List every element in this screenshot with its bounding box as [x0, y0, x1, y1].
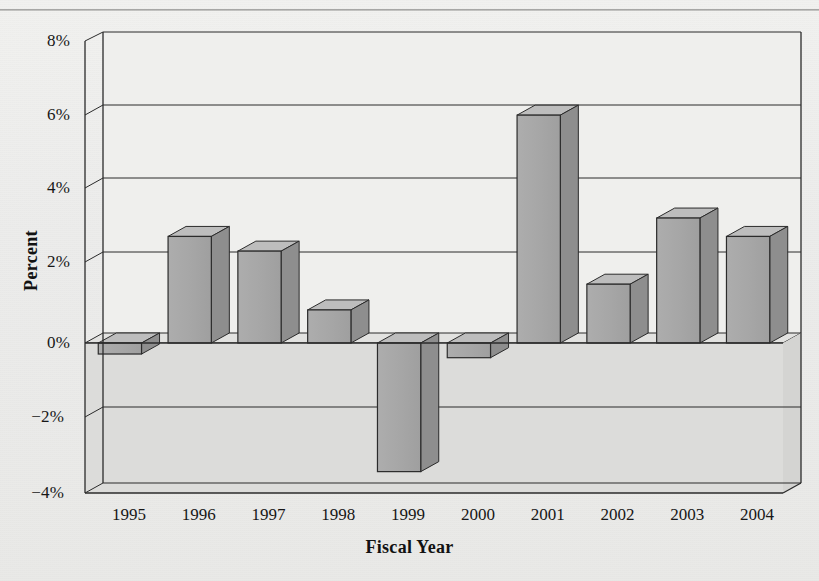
x-tick-label: 1997 — [234, 505, 304, 525]
bar-1996 — [168, 226, 229, 343]
x-tick-label: 2000 — [443, 505, 513, 525]
y-tick-label: −2% — [4, 407, 64, 427]
bar-1999 — [377, 333, 438, 472]
bar-2001 — [517, 105, 578, 343]
x-tick-label: 2001 — [513, 505, 583, 525]
chart-svg — [0, 0, 819, 581]
bar-2003 — [657, 208, 718, 343]
x-tick-label: 2002 — [583, 505, 653, 525]
y-tick-label: 4% — [10, 178, 70, 198]
y-axis-label: Percent — [21, 206, 42, 316]
chart-stage: 8% 6% 4% 2% 0% −2% −4% Percent 199519961… — [0, 0, 819, 581]
bar-1998 — [308, 300, 369, 343]
y-tick-label: −4% — [4, 483, 64, 503]
x-tick-label: 1995 — [94, 505, 164, 525]
x-tick-label: 1996 — [164, 505, 234, 525]
bar-2002 — [587, 274, 648, 343]
x-tick-label: 1999 — [373, 505, 443, 525]
bar-1997 — [238, 241, 299, 343]
floor-plane — [85, 333, 801, 493]
y-tick-label: 8% — [10, 31, 70, 51]
x-tick-label: 2004 — [722, 505, 792, 525]
bar-2004 — [726, 226, 787, 343]
y-tick-label: 6% — [10, 105, 70, 125]
x-axis-label: Fiscal Year — [0, 537, 819, 558]
y-tick-label: 0% — [10, 333, 70, 353]
x-tick-label: 1998 — [303, 505, 373, 525]
x-tick-label: 2003 — [652, 505, 722, 525]
